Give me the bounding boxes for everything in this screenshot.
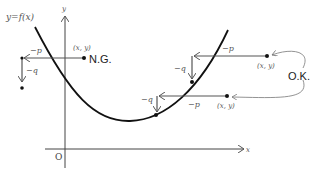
ok-upper-end-point	[190, 80, 194, 84]
ng-start-point	[82, 56, 86, 60]
ok-upper-start-point	[265, 54, 269, 58]
ng-status-label: N.G.	[89, 53, 112, 65]
ok-label: O.K.	[288, 70, 310, 82]
ok-lower-q-label: −q	[141, 95, 153, 104]
ok-upper-point-label: (x, y)	[257, 62, 275, 70]
x-axis-label: x	[246, 146, 250, 154]
y-axis-label: y	[61, 5, 67, 13]
ok-lower-point-label: (x, y)	[217, 102, 235, 110]
curve-label: y=f(x)	[5, 12, 35, 22]
ng-point-label: (x, y)	[73, 44, 91, 52]
diagram-canvas: y x O y=f(x) (x, y) −p −q N.G. −p −q (x,…	[0, 0, 328, 178]
ng-p-label: −p	[30, 46, 42, 55]
ng-end-point	[20, 86, 24, 90]
ng-corner-point	[20, 56, 23, 59]
ok-lower-p-label: −p	[188, 100, 200, 109]
ok-lower-start-point	[225, 94, 229, 98]
ok-lower-end-point	[154, 113, 158, 117]
origin-label: O	[55, 152, 62, 162]
ok-upper-q-label: −q	[174, 64, 186, 73]
ng-q-label: −q	[26, 66, 38, 75]
ok-upper-p-label: −p	[222, 44, 234, 53]
